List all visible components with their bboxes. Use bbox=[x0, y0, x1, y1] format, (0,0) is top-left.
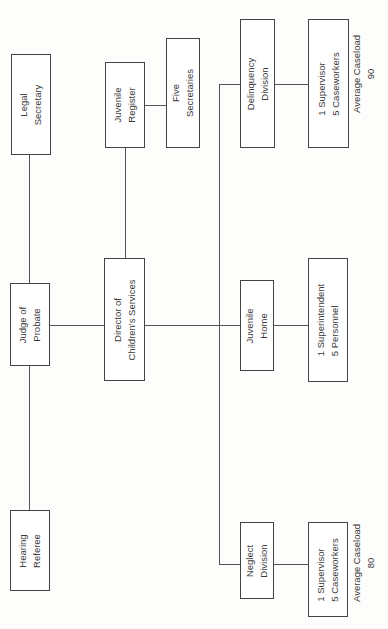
node-delinquency-division: DelinquencyDivision bbox=[240, 19, 275, 148]
node-juvenile-home-staff: 1 Superintendent5 Personnel bbox=[308, 258, 348, 382]
node-legal-secretary: LegalSecretary bbox=[11, 54, 51, 155]
connector-delinquency-staff bbox=[275, 84, 308, 85]
connector-director-divisions bbox=[145, 325, 240, 326]
caption-caseload-80: Average Caseload80 bbox=[352, 523, 376, 603]
node-neglect-division: NeglectDivision bbox=[240, 522, 274, 599]
node-juvenile-register: JuvenileRegister bbox=[105, 62, 145, 148]
node-five-secretaries: FiveSecretaries bbox=[166, 38, 200, 148]
connector-judge-director bbox=[50, 325, 104, 326]
connector-home-staff bbox=[274, 325, 308, 326]
node-judge-of-probate: Judge ofProbate bbox=[10, 283, 50, 366]
caption-caseload-90: Average Caseload90 bbox=[352, 19, 376, 129]
node-hearing-referee: HearingReferee bbox=[10, 510, 50, 591]
connector-to-neglect bbox=[219, 564, 240, 565]
node-director: Director ofChildren's Services bbox=[104, 258, 145, 381]
connector-register-secretaries bbox=[145, 105, 166, 106]
connector-neglect-staff bbox=[274, 564, 308, 565]
node-neglect-staff: 1 Supervisor5 Caseworkers bbox=[308, 522, 348, 617]
connector-to-delinquency bbox=[219, 84, 240, 85]
node-delinquency-staff: 1 Supervisor5 Caseworkers bbox=[308, 19, 349, 148]
node-juvenile-home: JuvenileHome bbox=[240, 280, 274, 371]
connector-director-register bbox=[125, 148, 126, 258]
connector-divisions-spine bbox=[219, 84, 220, 565]
